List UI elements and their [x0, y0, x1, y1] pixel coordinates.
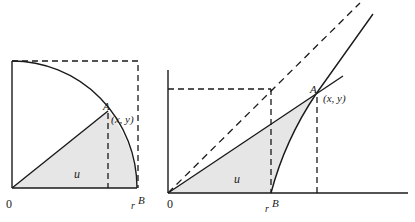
right-panel: 0 A (x, y) u r B	[167, 3, 408, 214]
left-panel: 0 A (x, y) u r B	[6, 61, 145, 211]
right-origin-label: 0	[167, 197, 173, 211]
right-r-label: r	[265, 203, 269, 214]
right-point-A-label: A	[309, 83, 317, 95]
right-B-label: B	[272, 197, 279, 209]
left-B-label: B	[138, 194, 145, 206]
diagram-canvas: 0 A (x, y) u r B 0 A (x, y) u r B	[0, 0, 415, 222]
right-area-u-label: u	[234, 172, 240, 186]
right-coord-label: (x, y)	[323, 92, 346, 105]
left-origin-label: 0	[6, 197, 12, 211]
left-area-u-label: u	[74, 167, 80, 181]
left-point-A-label: A	[102, 100, 110, 112]
left-coord-label: (x, y)	[111, 113, 134, 126]
left-r-label: r	[131, 200, 135, 211]
